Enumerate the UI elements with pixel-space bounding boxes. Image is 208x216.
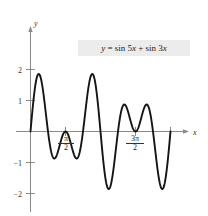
equation-rhs-term1: sin 5 xyxy=(115,43,132,53)
y-tick-label-1: 1 xyxy=(18,97,22,106)
x-tick-label-pi-over-2: π 2 xyxy=(58,135,74,152)
equation-equals: = xyxy=(107,43,112,53)
y-tick-label-2: 2 xyxy=(18,66,22,75)
plot-canvas: 2 1 −1 −2 y x xyxy=(0,0,208,216)
x-tick-label-3pi-over-2: 3π 2 xyxy=(126,135,144,152)
figure-plot-sin5x-plus-sin3x: 2 1 −1 −2 y x π 2 3π 2 y = sin 5x + sin … xyxy=(0,0,208,216)
equation-label: y = sin 5x + sin 3x xyxy=(78,40,190,56)
equation-lhs: y xyxy=(101,43,105,53)
equation-rhs-var2: x xyxy=(163,43,167,53)
y-tick-label-minus-1: −1 xyxy=(13,159,22,168)
equation-rhs-var1: x xyxy=(132,43,136,53)
y-axis-arrow-icon xyxy=(28,26,32,32)
x-tick-label-pi-over-2-denominator: 2 xyxy=(58,143,74,152)
equation-plus: + xyxy=(138,43,143,53)
x-axis xyxy=(16,129,189,133)
y-axis-label: y xyxy=(33,19,38,28)
equation-rhs-term2: sin 3 xyxy=(146,43,163,53)
x-tick-label-3pi-over-2-denominator: 2 xyxy=(126,143,144,152)
x-axis-label: x xyxy=(192,128,197,137)
x-axis-arrow-icon xyxy=(183,129,189,133)
x-tick-label-3pi-over-2-numerator: 3π xyxy=(126,135,144,143)
y-tick-label-minus-2: −2 xyxy=(13,190,22,199)
x-tick-label-pi-over-2-numerator: π xyxy=(58,135,74,143)
